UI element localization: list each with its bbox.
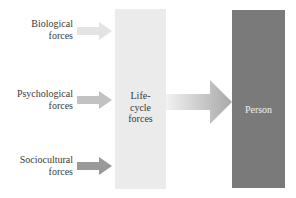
psychological-arrow-icon (77, 91, 112, 109)
arrows-layer (0, 0, 296, 198)
sociocultural-arrow-icon (77, 157, 112, 175)
biological-arrow-icon (77, 22, 112, 40)
main-arrow-icon (166, 80, 232, 124)
